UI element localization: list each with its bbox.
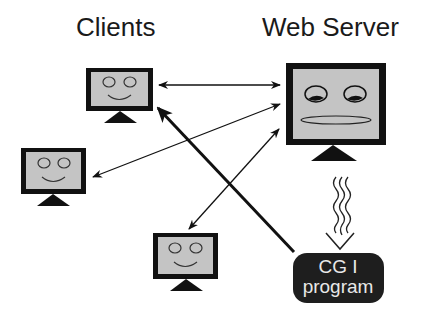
client-1-monitor [86,68,153,123]
monitor-stand-icon [37,194,70,206]
cgi-label-line1: CG I [293,257,383,277]
wavy-arrow-icon [326,177,354,249]
monitor-stand-icon [170,279,203,291]
monitor-stand-icon [104,111,137,123]
monitor-stand-icon [311,145,357,161]
web-server-monitor [286,63,386,161]
client-3-monitor [153,233,218,291]
cgi-to-client-1-arrow [158,108,294,252]
client-2-monitor [21,148,86,206]
cgi-label-line2: program [293,277,383,297]
cgi-program-label: CG I program [293,257,383,297]
client-3-server-arrow [189,129,279,229]
